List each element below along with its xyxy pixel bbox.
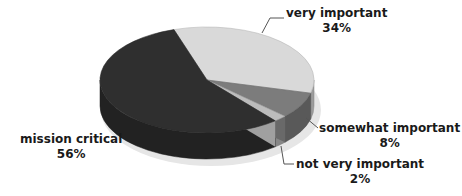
- label-mission-critical-name: mission critical: [20, 132, 122, 147]
- label-not-very-important-pct: 2%: [296, 172, 424, 187]
- label-not-very-important-name: not very important: [296, 157, 424, 172]
- label-somewhat-important: somewhat important 8%: [319, 121, 460, 151]
- label-very-important-pct: 34%: [286, 21, 387, 36]
- label-somewhat-important-pct: 8%: [319, 136, 460, 151]
- pie-chart: very important 34% somewhat important 8%…: [0, 0, 462, 196]
- leader-very-important: [262, 18, 284, 33]
- label-mission-critical: mission critical 56%: [20, 132, 122, 162]
- label-somewhat-important-name: somewhat important: [319, 121, 460, 136]
- label-very-important: very important 34%: [286, 6, 387, 36]
- pie-top: [100, 27, 314, 133]
- label-very-important-name: very important: [286, 6, 387, 21]
- label-not-very-important: not very important 2%: [296, 157, 424, 187]
- label-mission-critical-pct: 56%: [20, 147, 122, 162]
